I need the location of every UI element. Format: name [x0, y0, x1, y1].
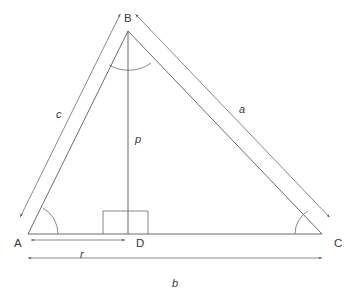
right-angle-marker: [103, 211, 148, 234]
geometry-diagram: A B C D a b c p r: [0, 0, 353, 301]
dimension-line-c: [20, 14, 120, 217]
angle-arc-a: [43, 208, 58, 234]
right-angle-box: [103, 211, 148, 234]
side-label-b: b: [172, 277, 178, 289]
side-label-p: p: [134, 133, 141, 145]
vertex-label-d: D: [136, 237, 144, 249]
angle-arc-b: [109, 63, 151, 70]
side-label-a: a: [239, 103, 245, 115]
triangle-outline: [28, 31, 322, 234]
vertex-label-a: A: [14, 237, 22, 249]
vertex-label-c: C: [334, 237, 342, 249]
side-ab-line: [28, 31, 128, 234]
triangle-svg: A B C D a b c p r: [0, 0, 353, 301]
vertex-label-b: B: [124, 12, 132, 24]
angle-arc-c: [295, 211, 308, 234]
side-label-c: c: [56, 108, 62, 120]
dimension-line-a: [136, 14, 330, 217]
side-bc-line: [128, 31, 322, 234]
